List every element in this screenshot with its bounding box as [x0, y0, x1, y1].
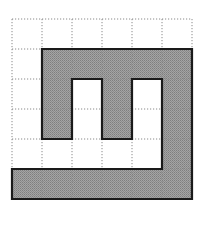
- shaded-cell: [102, 79, 132, 109]
- shaded-cell: [42, 79, 72, 109]
- shaded-cell: [162, 109, 192, 139]
- shaded-cell: [102, 49, 132, 79]
- shaded-cell: [162, 169, 192, 199]
- grid-shape-diagram: [0, 0, 205, 227]
- shaded-cell: [162, 49, 192, 79]
- shaded-cell: [162, 79, 192, 109]
- grid-figure: [0, 0, 205, 227]
- shaded-cell: [42, 49, 72, 79]
- shaded-cell: [72, 49, 102, 79]
- shaded-cell: [102, 169, 132, 199]
- shaded-cell: [132, 49, 162, 79]
- shaded-cell: [42, 169, 72, 199]
- shaded-cell: [12, 169, 42, 199]
- shaded-cell: [42, 109, 72, 139]
- shaded-cell: [162, 139, 192, 169]
- shaded-cell: [132, 169, 162, 199]
- shaded-cell: [72, 169, 102, 199]
- shaded-cell: [102, 109, 132, 139]
